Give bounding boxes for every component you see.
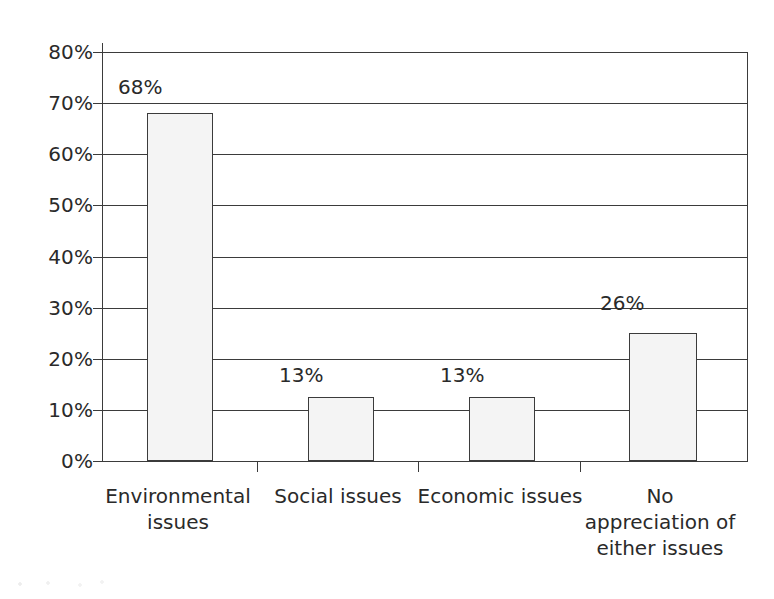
bar-value-economic: 13% xyxy=(440,364,484,386)
bar-no-appreciation xyxy=(629,333,697,461)
bar-social-issues xyxy=(308,397,374,461)
x-tick-3 xyxy=(580,461,581,472)
y-axis-label-50: 50% xyxy=(27,195,93,215)
y-axis-line xyxy=(102,52,103,461)
y-axis-label-70: 70% xyxy=(27,93,93,113)
y-axis-label-0: 0% xyxy=(27,451,93,471)
plot-area xyxy=(102,52,748,461)
x-tick-1 xyxy=(257,461,258,472)
bar-chart: 80% 70% 60% 50% 40% 30% 20% 10% 0% xyxy=(0,0,774,599)
bar-value-no-appreciation: 26% xyxy=(600,292,644,314)
category-label-line: issues xyxy=(78,509,278,535)
category-label-line: either issues xyxy=(560,535,760,561)
y-axis-label-30: 30% xyxy=(27,298,93,318)
axis-baseline-0 xyxy=(102,461,748,462)
plot-right-border xyxy=(747,52,748,461)
x-tick-2 xyxy=(418,461,419,472)
y-axis-label-20: 20% xyxy=(27,349,93,369)
y-axis-label-80: 80% xyxy=(27,42,93,62)
category-label-line: No xyxy=(560,483,760,509)
bar-environmental-issues xyxy=(147,113,213,461)
scan-artifact xyxy=(14,580,106,588)
y-axis-label-10: 10% xyxy=(27,400,93,420)
y-axis-label-60: 60% xyxy=(27,144,93,164)
y-tick-0 xyxy=(93,461,103,462)
bar-value-social: 13% xyxy=(279,364,323,386)
gridline-70 xyxy=(102,103,748,104)
y-axis-label-40: 40% xyxy=(27,247,93,267)
bar-value-environmental: 68% xyxy=(118,76,162,98)
category-label-line: appreciation of xyxy=(560,509,760,535)
category-label-no-appreciation: No appreciation of either issues xyxy=(560,483,760,561)
bar-economic-issues xyxy=(469,397,535,461)
gridline-80 xyxy=(102,52,748,53)
